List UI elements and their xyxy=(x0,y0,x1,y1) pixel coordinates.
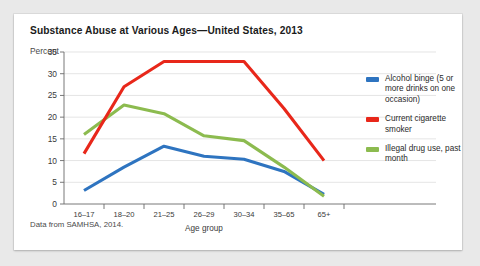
legend-label: Illegal drug use, past month xyxy=(385,144,470,165)
x-axis-tick-label: 30–34 xyxy=(233,210,254,219)
source-note: Data from SAMHSA, 2014. xyxy=(30,220,123,229)
y-axis-tick-label: 30 xyxy=(48,69,58,79)
x-axis-tick-label: 35–65 xyxy=(273,210,294,219)
legend-item-cigarette-smoker: Current cigarette smoker xyxy=(366,114,470,135)
legend-swatch-icon xyxy=(366,77,379,82)
x-axis-tick-label: 21–25 xyxy=(153,210,174,219)
x-axis-tick-label: 26–29 xyxy=(193,210,214,219)
legend-item-illegal-drug-use: Illegal drug use, past month xyxy=(366,144,470,165)
legend-item-alcohol-binge: Alcohol binge (5 or more drinks on one o… xyxy=(366,74,470,105)
x-axis-tick-label: 16–17 xyxy=(73,210,94,219)
series-line-cigarette-smoker xyxy=(84,62,324,161)
legend-label: Current cigarette smoker xyxy=(385,114,470,135)
x-axis-title: Age group xyxy=(185,224,223,233)
chart-legend: Alcohol binge (5 or more drinks on one o… xyxy=(366,74,470,174)
y-axis-tick-label: 15 xyxy=(48,134,58,144)
y-axis-tick-label: 25 xyxy=(48,90,58,100)
x-axis-tick-label: 65+ xyxy=(318,210,331,219)
y-axis-tick-label: 0 xyxy=(52,199,57,209)
y-axis-tick-label: 5 xyxy=(52,177,57,187)
legend-swatch-icon xyxy=(366,147,379,152)
y-axis-tick-label: 35 xyxy=(48,47,58,57)
x-axis-tick-label: 18–20 xyxy=(113,210,134,219)
y-axis-tick-label: 20 xyxy=(48,112,58,122)
chart-card: Substance Abuse at Various Ages—United S… xyxy=(14,14,462,250)
y-axis-tick-label: 10 xyxy=(48,156,58,166)
legend-label: Alcohol binge (5 or more drinks on one o… xyxy=(385,74,470,105)
legend-swatch-icon xyxy=(366,117,379,122)
